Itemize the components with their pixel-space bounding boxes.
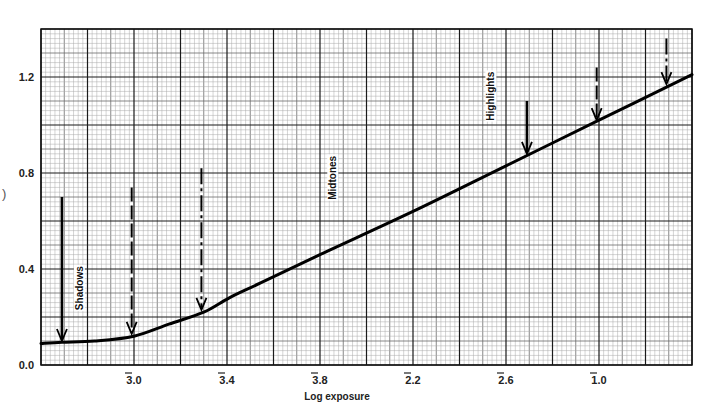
y-tick-label: 1.2 — [19, 71, 34, 83]
region-label-midtones: Midtones — [327, 155, 338, 199]
region-label-shadows: Shadows — [74, 266, 85, 310]
x-tick-label: 3.8 — [312, 374, 327, 386]
zone-arrows — [57, 39, 672, 341]
x-tick-label: 3.4 — [219, 374, 235, 386]
x-tick-label: 3.0 — [126, 374, 141, 386]
arrow-dashed — [592, 67, 602, 120]
y-axis-tick-labels: 0.00.40.81.2 — [19, 71, 35, 371]
arrow-dashdot — [196, 168, 206, 310]
x-tick-label: 2.2 — [405, 374, 420, 386]
y-tick-label: 0.8 — [19, 167, 34, 179]
region-label-highlights: Highlights — [485, 71, 496, 120]
x-tick-label: 2.6 — [498, 374, 513, 386]
arrow-solid — [522, 101, 532, 154]
region-labels: ShadowsMidtonesHighlights — [74, 70, 497, 311]
arrow-dashed — [127, 187, 137, 333]
x-tick-label: 1.0 — [591, 374, 606, 386]
x-axis-title: Log exposure — [304, 391, 370, 402]
arrow-dashdot — [661, 39, 671, 85]
x-axis-tick-labels: 3.03.43.82.22.61.0 — [125, 373, 607, 386]
y-tick-label: 0.0 — [19, 359, 34, 371]
y-tick-label: 0.4 — [19, 263, 35, 275]
scan-artifact-mark: ) — [2, 186, 6, 201]
characteristic-curve-chart: 0.00.40.81.2 3.03.43.82.22.61.0 Log expo… — [0, 0, 719, 419]
